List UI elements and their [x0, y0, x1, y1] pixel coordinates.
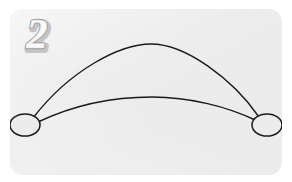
numeral-badge-inner: 2 [26, 11, 48, 57]
numeral-badge: 2 2 2 [11, 8, 63, 60]
graph-node-right[interactable] [252, 114, 282, 136]
numeral-badge-glyph: 2 2 2 [11, 8, 63, 60]
graph-edge-lower [38, 97, 255, 122]
graph-edge-upper [33, 44, 259, 118]
screenshot-root: 2 2 2 [0, 0, 292, 182]
graph-node-left[interactable] [10, 114, 40, 136]
